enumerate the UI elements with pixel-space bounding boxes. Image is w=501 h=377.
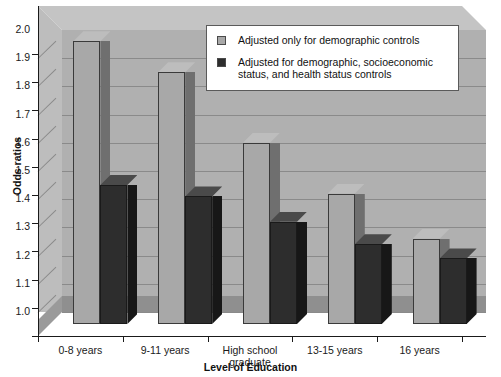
y-axis-tick xyxy=(32,251,38,252)
bar-front xyxy=(270,222,297,324)
x-axis-line xyxy=(38,336,486,337)
x-axis-tick xyxy=(377,336,378,342)
y-tick-label: 2.0 xyxy=(0,23,30,35)
legend-swatch-light-icon xyxy=(217,36,226,45)
legend-label-0: Adjusted only for demographic controls xyxy=(238,34,420,47)
x-tick-label: 16 years xyxy=(370,344,470,356)
bar-front xyxy=(413,239,440,324)
y-axis-tick xyxy=(32,167,38,168)
bar xyxy=(158,72,185,324)
bar-front xyxy=(440,258,467,324)
bar xyxy=(328,194,355,324)
bar xyxy=(100,185,127,324)
legend-item-0: Adjusted only for demographic controls xyxy=(217,34,448,47)
y-axis-tick xyxy=(32,223,38,224)
bar-side xyxy=(382,244,392,324)
bar-top xyxy=(355,234,382,244)
bar-side xyxy=(127,185,137,324)
legend: Adjusted only for demographic controls A… xyxy=(206,25,459,91)
y-axis-line xyxy=(38,6,39,336)
y-axis-tick xyxy=(32,110,38,111)
bar-side xyxy=(297,222,307,324)
bar-front xyxy=(73,41,100,324)
x-axis-title: Level of Education xyxy=(0,361,501,373)
y-tick-label: 1.0 xyxy=(0,305,30,317)
bar xyxy=(270,222,297,324)
bar-top xyxy=(158,62,185,72)
y-axis-tick xyxy=(32,54,38,55)
bar xyxy=(185,196,212,324)
bar-front xyxy=(328,194,355,324)
y-axis-tick xyxy=(32,308,38,309)
bar-side xyxy=(212,196,222,324)
x-axis-tick xyxy=(292,336,293,342)
y-tick-label: 1.3 xyxy=(0,220,30,232)
bar xyxy=(243,143,270,324)
x-axis-tick xyxy=(123,336,124,342)
y-axis-tick xyxy=(32,139,38,140)
bar-top xyxy=(413,229,440,239)
bar-top xyxy=(440,248,467,258)
bar-front xyxy=(243,143,270,324)
y-axis-title: Odds ratios xyxy=(11,111,23,221)
legend-label-1: Adjusted for demographic, socioeconomic … xyxy=(238,56,448,81)
y-tick-label: 1.2 xyxy=(0,249,30,261)
y-tick-label: 1.1 xyxy=(0,277,30,289)
bar-top xyxy=(270,212,297,222)
bar-front xyxy=(185,196,212,324)
bar-top xyxy=(243,133,270,143)
y-axis-tick xyxy=(32,82,38,83)
bar-top xyxy=(328,184,355,194)
y-tick-label: 1.9 xyxy=(0,51,30,63)
bar-front xyxy=(158,72,185,324)
bar xyxy=(355,244,382,324)
legend-item-1: Adjusted for demographic, socioeconomic … xyxy=(217,56,448,81)
y-axis-tick xyxy=(32,280,38,281)
x-axis-tick xyxy=(462,336,463,342)
y-axis-tick xyxy=(32,336,38,337)
chart-root: 2.01.91.81.71.61.51.41.31.21.11.0 0-8 ye… xyxy=(0,0,501,377)
y-tick-label: 1.8 xyxy=(0,79,30,91)
bar xyxy=(413,239,440,324)
legend-swatch-dark-icon xyxy=(217,58,226,67)
bar-front xyxy=(100,185,127,324)
bar xyxy=(440,258,467,324)
bar xyxy=(73,41,100,324)
bar-top xyxy=(73,31,100,41)
bar-side xyxy=(467,258,477,324)
bar-top xyxy=(100,175,127,185)
bar-top xyxy=(185,186,212,196)
bar-front xyxy=(355,244,382,324)
x-axis-tick xyxy=(208,336,209,342)
x-axis-tick xyxy=(38,336,39,342)
y-axis-tick xyxy=(32,195,38,196)
